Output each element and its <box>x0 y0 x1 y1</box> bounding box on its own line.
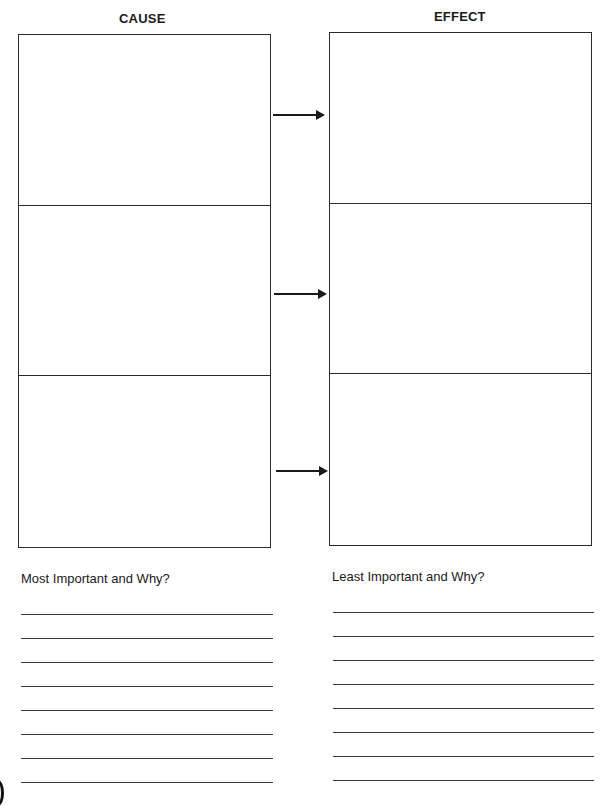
writing-line[interactable] <box>333 732 594 733</box>
writing-line[interactable] <box>333 660 594 661</box>
least-important-prompt: Least Important and Why? <box>332 569 484 584</box>
most-important-prompt: Most Important and Why? <box>21 571 170 586</box>
writing-line[interactable] <box>21 614 273 615</box>
writing-line[interactable] <box>333 708 594 709</box>
writing-line[interactable] <box>333 756 594 757</box>
writing-line[interactable] <box>333 636 594 637</box>
writing-line[interactable] <box>21 638 273 639</box>
effect-cell-1[interactable] <box>330 33 591 204</box>
writing-line[interactable] <box>21 734 273 735</box>
writing-line[interactable] <box>21 710 273 711</box>
effect-box <box>329 32 592 546</box>
cause-box <box>18 34 271 548</box>
writing-line[interactable] <box>21 758 273 759</box>
effect-heading: EFFECT <box>434 9 486 24</box>
cause-cell-3[interactable] <box>19 375 270 547</box>
writing-line[interactable] <box>333 780 594 781</box>
arrow-right-icon <box>276 466 328 476</box>
cause-cell-1[interactable] <box>19 35 270 206</box>
arrow-right-icon <box>273 110 325 120</box>
arrow-right-icon <box>274 289 326 299</box>
writing-line[interactable] <box>21 782 273 783</box>
cause-cell-2[interactable] <box>19 205 270 376</box>
writing-line[interactable] <box>333 684 594 685</box>
writing-line[interactable] <box>21 686 273 687</box>
writing-line[interactable] <box>21 662 273 663</box>
page-edge-mark <box>0 780 4 806</box>
cause-heading: CAUSE <box>119 11 166 26</box>
effect-cell-3[interactable] <box>330 373 591 545</box>
effect-cell-2[interactable] <box>330 203 591 374</box>
writing-line[interactable] <box>333 612 594 613</box>
